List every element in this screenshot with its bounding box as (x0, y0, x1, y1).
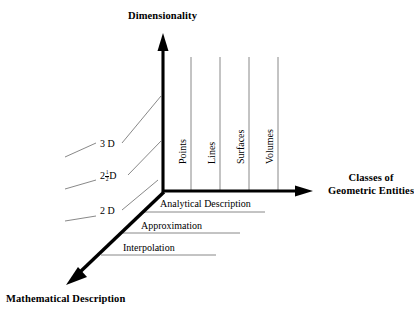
math-description-label-approximation: Approximation (141, 220, 202, 231)
dimensionality-2hd-fraction: 12 (105, 170, 109, 182)
right-arrow-icon (295, 186, 313, 197)
dimensionality-label-3d: 3 D (98, 138, 117, 149)
horizontal-axis-title-line1: Classes of (328, 171, 414, 184)
entity-class-label-volumes: Volumes (264, 129, 275, 164)
diagonal-axis-title: Mathematical Description (6, 293, 125, 304)
entity-class-label-surfaces: Surfaces (235, 130, 246, 164)
diagram-canvas: Dimensionality Classes of Geometric Enti… (0, 0, 414, 321)
dimensionality-2hd-unit: D (109, 170, 116, 181)
dimensionality-label-2d: 2 D (98, 205, 117, 216)
math-description-label-interpolation: Interpolation (123, 242, 175, 253)
entity-class-label-points: Points (177, 139, 188, 164)
horizontal-axis-title: Classes of Geometric Entities (328, 171, 414, 197)
horizontal-axis-title-line2: Geometric Entities (328, 184, 414, 197)
entity-class-label-lines: Lines (206, 142, 217, 164)
entity-class-gridlines (191, 57, 278, 191)
gridline-2hd-right (128, 141, 161, 175)
dimensionality-2d-unit: D (108, 205, 115, 216)
dimensionality-3d-whole: 3 (100, 138, 105, 149)
dimensionality-label-2-and-a-half-d: 212D (98, 170, 119, 183)
gridline-2hd-left (65, 180, 96, 189)
vertical-axis (158, 33, 169, 192)
up-arrow-icon (158, 33, 169, 51)
gridline-3d-left (65, 143, 96, 157)
dimensionality-gridlines (65, 96, 161, 221)
fraction-denominator: 2 (105, 177, 109, 183)
dimensionality-2hd-whole: 2 (100, 170, 105, 181)
diagonal-axis-line (80, 192, 164, 272)
gridline-2d-left (65, 216, 96, 221)
horizontal-axis (163, 186, 313, 197)
gridline-3d-right (122, 96, 161, 143)
dimensionality-2d-whole: 2 (100, 205, 105, 216)
gridline-2d-right (122, 180, 158, 210)
vertical-axis-title: Dimensionality (128, 10, 197, 21)
dimensionality-3d-unit: D (108, 138, 115, 149)
math-description-label-analytical-description: Analytical Description (160, 198, 251, 209)
